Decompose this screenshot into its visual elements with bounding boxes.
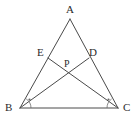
- label-d: D: [89, 46, 97, 58]
- cevian-ce-line: [48, 58, 118, 108]
- geometry-diagram: A B C E D P: [0, 0, 137, 122]
- angle-mark-b-dot: [28, 98, 30, 100]
- geometry-figure-container: A B C E D P: [0, 0, 137, 122]
- label-p: P: [64, 58, 70, 69]
- side-ab-line: [20, 19, 70, 108]
- side-ac-line: [70, 19, 118, 108]
- label-c: C: [123, 101, 130, 113]
- label-b: B: [5, 101, 12, 113]
- label-e: E: [37, 46, 44, 58]
- cevian-bd-line: [20, 58, 89, 108]
- label-a: A: [66, 3, 74, 15]
- angle-mark-c-dot: [107, 98, 109, 100]
